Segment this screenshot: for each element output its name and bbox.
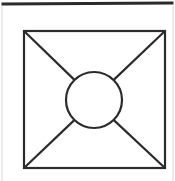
figure-canvas [0,0,175,181]
page-top-rule [3,3,172,4]
center-circle [66,72,122,128]
line-drawing-figure [0,0,175,181]
